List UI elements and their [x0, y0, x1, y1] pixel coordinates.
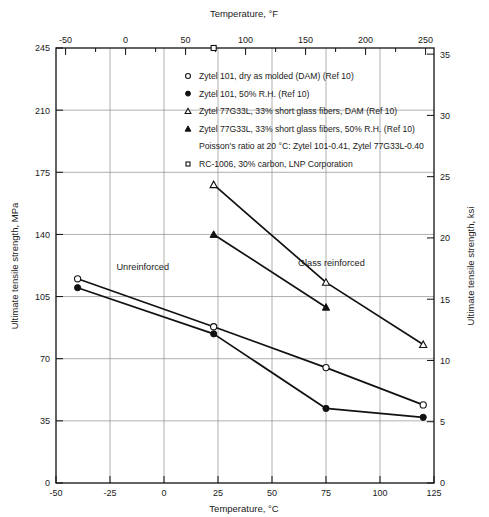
ytick-label-left: 70: [40, 354, 50, 364]
ytick-label-left: 245: [35, 43, 50, 53]
marker-open-circle: [420, 402, 426, 408]
left-axis-title: Ultimate tensile strength, MPa: [9, 202, 20, 329]
marker-filled-triangle: [185, 126, 191, 131]
right-axis-title: Ultimate tensile strength, ksi: [465, 207, 476, 326]
data-series: [75, 45, 427, 420]
legend-item: Zytel 77G33L, 33% short glass fibers, 50…: [185, 124, 415, 134]
axis-tick-labels: -50-250255075100125-50050100150200250035…: [35, 35, 450, 498]
xtick-label-bottom: 100: [372, 488, 387, 498]
ytick-label-right: 15: [440, 295, 450, 305]
ytick-label-right: 35: [440, 50, 450, 60]
legend-label: Zytel 77G33L, 33% short glass fibers, 50…: [199, 124, 415, 134]
marker-open-circle: [75, 276, 81, 282]
legend-label: Zytel 77G33L, 33% short glass fibers, DA…: [199, 106, 397, 116]
series-group: [75, 276, 427, 408]
marker-open-square: [211, 45, 216, 50]
bottom-axis-title: Temperature, °C: [209, 503, 278, 514]
chart-legend: Zytel 101, dry as molded (DAM) (Ref 10)Z…: [185, 71, 424, 169]
xtick-label-top: 250: [418, 35, 433, 45]
legend-item: Zytel 101, 50% R.H. (Ref 10): [186, 89, 310, 99]
xtick-label-bottom: 0: [161, 488, 166, 498]
marker-open-triangle: [185, 108, 191, 113]
ytick-label-left: 0: [45, 478, 50, 488]
legend-label: Zytel 101, dry as molded (DAM) (Ref 10): [199, 71, 354, 81]
marker-filled-circle: [75, 285, 81, 291]
ytick-label-right: 0: [440, 478, 445, 488]
series-line: [78, 279, 424, 405]
ytick-label-left: 140: [35, 230, 50, 240]
top-axis-title: Temperature, °F: [210, 8, 278, 19]
marker-filled-circle: [420, 414, 426, 420]
ytick-label-right: 5: [440, 417, 445, 427]
xtick-label-top: 100: [238, 35, 253, 45]
marker-open-triangle: [210, 181, 217, 188]
xtick-label-top: 150: [298, 35, 313, 45]
series-line: [78, 288, 424, 418]
chart-figure: -50-250255075100125-50050100150200250035…: [0, 0, 489, 517]
legend-item: RC-1006, 30% carbon, LNP Corporation: [186, 159, 353, 169]
ytick-label-right: 20: [440, 233, 450, 243]
legend-item: Zytel 101, dry as molded (DAM) (Ref 10): [186, 71, 354, 81]
ytick-label-right: 30: [440, 111, 450, 121]
marker-open-circle: [211, 324, 217, 330]
tensile-strength-vs-temperature-chart: -50-250255075100125-50050100150200250035…: [0, 0, 489, 517]
ytick-label-left: 175: [35, 168, 50, 178]
marker-open-square: [186, 162, 190, 166]
legend-label: Zytel 101, 50% R.H. (Ref 10): [199, 89, 309, 99]
legend-item: Poisson's ratio at 20 °C: Zytel 101-0.41…: [199, 141, 424, 151]
marker-open-circle: [186, 74, 191, 79]
marker-filled-circle: [211, 331, 217, 337]
xtick-label-bottom: 50: [267, 488, 277, 498]
xtick-label-top: 200: [358, 35, 373, 45]
xtick-label-bottom: -50: [49, 488, 62, 498]
xtick-label-top: 0: [123, 35, 128, 45]
series-group: [75, 285, 427, 421]
legend-item: Zytel 77G33L, 33% short glass fibers, DA…: [185, 106, 397, 116]
series-group: [211, 45, 216, 50]
plot-annotation: Glass reinforced: [298, 258, 365, 268]
ytick-label-right: 25: [440, 172, 450, 182]
marker-filled-circle: [186, 91, 191, 96]
xtick-label-bottom: -25: [103, 488, 116, 498]
marker-filled-circle: [323, 405, 329, 411]
legend-label: Poisson's ratio at 20 °C: Zytel 101-0.41…: [199, 141, 424, 151]
plot-annotation: Unreinforced: [116, 262, 169, 272]
xtick-label-top: 50: [181, 35, 191, 45]
xtick-label-top: -50: [59, 35, 72, 45]
xtick-label-bottom: 75: [321, 488, 331, 498]
legend-label: RC-1006, 30% carbon, LNP Corporation: [199, 159, 353, 169]
ytick-label-right: 10: [440, 356, 450, 366]
marker-open-circle: [323, 364, 329, 370]
ytick-label-left: 210: [35, 106, 50, 116]
xtick-label-bottom: 125: [426, 488, 441, 498]
ytick-label-left: 35: [40, 416, 50, 426]
xtick-label-bottom: 25: [213, 488, 223, 498]
ytick-label-left: 105: [35, 292, 50, 302]
plot-annotations: UnreinforcedGlass reinforced: [116, 258, 364, 272]
